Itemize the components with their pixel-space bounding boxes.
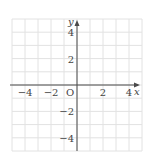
origin-label: O bbox=[66, 87, 74, 98]
y-axis-arrow-icon bbox=[75, 20, 80, 26]
y-tick-label: −4 bbox=[59, 133, 74, 144]
y-tick-label: 4 bbox=[68, 27, 74, 38]
coordinate-plane: −4−22442−2−4 x y O bbox=[0, 0, 150, 157]
y-tick-label: −2 bbox=[59, 106, 74, 117]
axes bbox=[10, 20, 140, 151]
x-axis-label: x bbox=[134, 86, 140, 97]
x-tick-label: 4 bbox=[126, 87, 132, 98]
x-tick-label: 2 bbox=[100, 87, 106, 98]
y-axis-label: y bbox=[67, 16, 74, 27]
x-tick-label: −4 bbox=[18, 87, 33, 98]
x-tick-label: −2 bbox=[44, 87, 59, 98]
y-tick-label: 2 bbox=[68, 54, 74, 65]
